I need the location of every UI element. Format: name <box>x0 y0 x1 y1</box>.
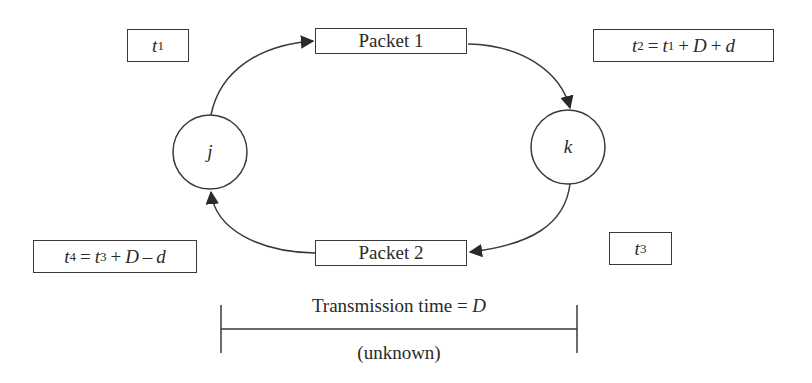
t2-equals: = <box>648 35 659 57</box>
packet-2-label: Packet 2 <box>359 242 424 264</box>
t2-c: d <box>725 35 735 57</box>
t2-b: D <box>693 35 707 57</box>
t4-equals: = <box>80 246 91 268</box>
packet-1-label: Packet 1 <box>359 30 424 52</box>
t4-lhs-sub: 4 <box>69 249 76 265</box>
node-k-label: k <box>564 136 572 158</box>
t4-b: D <box>125 246 139 268</box>
transmission-time-text: Transmission time = <box>312 295 472 316</box>
t4-a-sub: 3 <box>100 249 107 265</box>
t4-c: d <box>156 246 166 268</box>
timestamp-t2-box: t2 = t1 + D + d <box>593 29 774 62</box>
t1-sub: 1 <box>157 38 164 54</box>
packet-1-box: Packet 1 <box>315 28 467 54</box>
transmission-time-label: Transmission time = D <box>312 295 486 317</box>
t2-lhs-sub: 2 <box>637 38 644 54</box>
t4-op1: + <box>110 246 121 268</box>
node-j-label: j <box>207 141 212 163</box>
t2-op2: + <box>711 35 722 57</box>
edge-packet1-to-k <box>468 44 570 108</box>
edge-packet2-to-j <box>211 192 315 253</box>
edge-k-to-packet2 <box>470 184 570 252</box>
packet-2-box: Packet 2 <box>315 240 467 266</box>
t2-a-sub: 1 <box>668 38 675 54</box>
timestamp-t3-box: t3 <box>609 232 672 265</box>
t2-op1: + <box>678 35 689 57</box>
edge-j-to-packet1 <box>211 41 313 115</box>
t4-op2: – <box>143 246 153 268</box>
t3-sub: 3 <box>640 241 647 257</box>
timestamp-t4-box: t4 = t3 + D – d <box>33 240 197 273</box>
timestamp-t1-box: t1 <box>127 29 189 62</box>
transmission-time-var: D <box>472 295 486 316</box>
transmission-unknown-note: (unknown) <box>357 342 440 364</box>
